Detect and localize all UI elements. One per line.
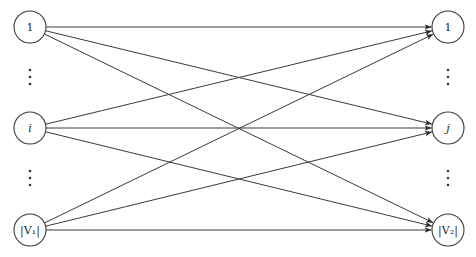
- node-label: |V₂|: [438, 224, 458, 238]
- ellipsis-dot: [447, 184, 450, 187]
- right-node-Rj: j: [432, 112, 464, 144]
- right-node-Rn: |V₂|: [432, 214, 464, 246]
- ellipsis-dot: [447, 76, 450, 79]
- ellipsis-dot: [447, 177, 450, 180]
- left-node-L1: 1: [14, 11, 46, 43]
- ellipsis-dot: [447, 83, 450, 86]
- ellipsis-dot: [447, 69, 450, 72]
- ellipsis-dot: [29, 83, 32, 86]
- ellipsis-dot: [29, 69, 32, 72]
- ellipsis-dot: [29, 76, 32, 79]
- bipartite-graph-diagram: 1i|V₁|1j|V₂|: [0, 0, 476, 257]
- ellipsis-dot: [29, 184, 32, 187]
- edges-group: [44, 27, 433, 230]
- ellipsis-dot: [447, 170, 450, 173]
- left-node-Li: i: [14, 112, 46, 144]
- node-label: 1: [445, 21, 452, 34]
- right-node-R1: 1: [432, 11, 464, 43]
- left-node-Ln: |V₁|: [14, 214, 46, 246]
- node-label: |V₁|: [20, 224, 40, 238]
- node-label: 1: [27, 21, 34, 34]
- ellipsis-dot: [29, 170, 32, 173]
- node-label: i: [28, 122, 32, 135]
- ellipsis-dot: [29, 177, 32, 180]
